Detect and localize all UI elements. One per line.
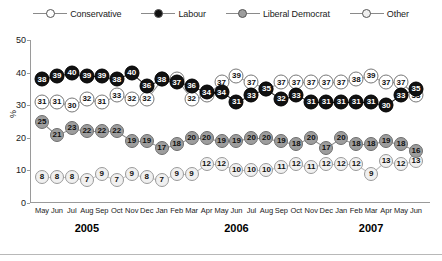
data-point: 31	[349, 94, 364, 109]
data-point: 9	[95, 167, 109, 181]
data-point: 39	[364, 68, 379, 83]
data-point: 9	[364, 167, 378, 181]
data-point: 12	[334, 157, 348, 171]
x-tick-label: Feb	[350, 206, 363, 215]
data-point: 33	[394, 88, 409, 103]
data-point: 33	[109, 88, 124, 103]
legend-label: Liberal Democrat	[263, 9, 330, 19]
data-point: 39	[49, 68, 64, 83]
x-tick-label: Mar	[185, 206, 198, 215]
x-axis-year-labels: 200520062007	[0, 222, 442, 244]
data-point: 20	[200, 131, 214, 145]
data-point: 37	[304, 75, 319, 90]
y-tick-mark	[27, 170, 30, 171]
y-tick-40: 40	[16, 68, 26, 78]
data-point: 35	[409, 81, 424, 96]
data-point: 32	[184, 91, 199, 106]
data-point: 8	[140, 170, 154, 184]
x-tick-label: Sep	[275, 206, 288, 215]
data-point: 40	[124, 65, 139, 80]
data-point: 22	[95, 124, 109, 138]
data-point: 37	[379, 75, 394, 90]
x-tick-label: Jul	[67, 206, 77, 215]
data-point: 9	[185, 167, 199, 181]
data-point: 32	[79, 91, 94, 106]
legend-item-labour[interactable]: Labour	[141, 8, 205, 19]
y-tick-20: 20	[16, 133, 26, 143]
data-point: 19	[215, 134, 229, 148]
data-point: 13	[379, 154, 393, 168]
data-point: 33	[244, 88, 259, 103]
data-point: 38	[349, 72, 364, 87]
bottom-divider	[0, 254, 442, 255]
legend-label: Other	[387, 9, 409, 19]
year-label-2006: 2006	[224, 222, 248, 234]
data-point: 11	[304, 160, 318, 174]
data-point: 31	[304, 94, 319, 109]
data-point: 36	[139, 78, 154, 93]
data-point: 38	[35, 72, 50, 87]
data-point: 17	[155, 141, 169, 155]
data-point: 19	[125, 134, 139, 148]
data-point: 30	[379, 98, 394, 113]
data-point: 40	[64, 65, 79, 80]
data-point: 32	[274, 91, 289, 106]
x-tick-label: Apr	[201, 206, 213, 215]
legend-item-liberal_democrat[interactable]: Liberal Democrat	[226, 8, 330, 19]
data-point: 30	[64, 98, 79, 113]
y-tick-mark	[27, 105, 30, 106]
data-point: 12	[215, 157, 229, 171]
legend-label: Conservative	[70, 9, 121, 19]
data-point: 20	[259, 131, 273, 145]
x-tick-label: Sep	[95, 206, 108, 215]
x-axis	[30, 202, 430, 203]
data-point: 12	[319, 157, 333, 171]
y-tick-mark	[27, 138, 30, 139]
chart-legend: ConservativeLabourLiberal DemocratOther	[0, 8, 442, 19]
data-point: 18	[394, 137, 408, 151]
data-point: 31	[319, 94, 334, 109]
data-point: 31	[364, 94, 379, 109]
x-tick-label: Oct	[290, 206, 302, 215]
data-point: 39	[229, 68, 244, 83]
x-tick-label: Mar	[365, 206, 378, 215]
legend-item-conservative[interactable]: Conservative	[33, 8, 121, 19]
y-tick-mark	[27, 203, 30, 204]
y-tick-50: 50	[16, 35, 26, 45]
y-tick-30: 30	[16, 100, 26, 110]
data-point: 31	[229, 94, 244, 109]
x-tick-label: Jan	[335, 206, 347, 215]
data-point: 39	[94, 68, 109, 83]
x-tick-label: Aug	[260, 206, 273, 215]
x-tick-label: May	[35, 206, 49, 215]
data-point: 19	[140, 134, 154, 148]
data-point: 19	[379, 134, 393, 148]
data-point: 8	[35, 170, 49, 184]
data-point: 23	[65, 121, 79, 135]
data-point: 25	[35, 115, 49, 129]
data-point: 12	[394, 157, 408, 171]
x-tick-label: Oct	[111, 206, 123, 215]
x-tick-label: Feb	[170, 206, 183, 215]
data-point: 9	[170, 167, 184, 181]
data-point: 37	[319, 75, 334, 90]
data-point: 19	[229, 134, 243, 148]
legend-marker	[238, 9, 247, 18]
data-point: 31	[334, 94, 349, 109]
data-point: 20	[185, 131, 199, 145]
data-point: 33	[289, 88, 304, 103]
x-tick-label: Jun	[410, 206, 422, 215]
data-point: 22	[110, 124, 124, 138]
x-tick-label: Jun	[230, 206, 242, 215]
data-point: 31	[49, 94, 64, 109]
data-point: 11	[274, 160, 288, 174]
data-point: 18	[289, 137, 303, 151]
data-point: 18	[349, 137, 363, 151]
x-axis-tick-labels: MayJunJulAugSepOctNovDecJanFebMarAprMayJ…	[30, 206, 430, 218]
y-axis-label: %	[8, 110, 18, 118]
legend-item-other[interactable]: Other	[350, 8, 409, 19]
x-tick-label: Nov	[125, 206, 138, 215]
year-label-2005: 2005	[75, 222, 99, 234]
data-point: 12	[289, 157, 303, 171]
legend-label: Labour	[178, 9, 205, 19]
